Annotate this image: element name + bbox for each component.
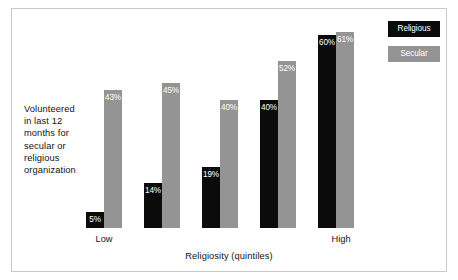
bar-religious-quintile-1[interactable]: 5% — [86, 212, 104, 228]
bar-value-secular-quintile-3: 40% — [220, 103, 238, 112]
bar-group-quintile-5: 60% 61% — [318, 16, 354, 228]
bar-religious-quintile-2[interactable]: 14% — [144, 183, 162, 228]
bar-secular-quintile-2[interactable]: 45% — [162, 83, 180, 228]
bar-group-quintile-3: 19% 40% — [202, 16, 238, 228]
bar-secular-quintile-4[interactable]: 52% — [278, 61, 296, 228]
bar-group-quintile-4: 40% 52% — [260, 16, 296, 228]
bar-group-quintile-2: 14% 45% — [144, 16, 180, 228]
bar-value-religious-quintile-5: 60% — [318, 38, 336, 47]
bar-value-secular-quintile-2: 45% — [162, 86, 180, 95]
bar-secular-quintile-5[interactable]: 61% — [336, 32, 354, 228]
bar-religious-quintile-3[interactable]: 19% — [202, 167, 220, 228]
bar-value-secular-quintile-1: 43% — [104, 93, 122, 102]
bar-value-religious-quintile-2: 14% — [144, 186, 162, 195]
y-axis-label-line-2: in last 12 — [24, 115, 90, 127]
bar-value-religious-quintile-4: 40% — [260, 103, 278, 112]
y-axis-label: Volunteered in last 12 months for secula… — [24, 103, 90, 176]
legend-label-religious: Religious — [388, 21, 440, 37]
bar-religious-quintile-5[interactable]: 60% — [318, 35, 336, 228]
legend-item-religious[interactable]: Religious — [388, 21, 440, 37]
bar-value-religious-quintile-1: 5% — [86, 215, 104, 224]
legend-label-secular: Secular — [388, 46, 440, 62]
chart-figure: Volunteered in last 12 months for secula… — [0, 0, 458, 280]
legend-item-secular[interactable]: Secular — [388, 46, 440, 62]
y-axis-label-line-6: organization — [24, 164, 90, 176]
y-axis-label-line-1: Volunteered — [24, 103, 90, 115]
y-axis-label-line-4: secular or — [24, 140, 90, 152]
x-tick-label-low: Low — [74, 234, 134, 244]
bar-religious-quintile-4[interactable]: 40% — [260, 100, 278, 228]
x-axis-title: Religiosity (quintiles) — [0, 251, 458, 261]
bar-secular-quintile-1[interactable]: 43% — [104, 90, 122, 228]
y-axis-label-line-3: months for — [24, 127, 90, 139]
bar-value-religious-quintile-3: 19% — [202, 170, 220, 179]
chart-legend: Religious Secular — [388, 21, 440, 71]
bar-secular-quintile-3[interactable]: 40% — [220, 100, 238, 228]
bar-value-secular-quintile-5: 61% — [336, 35, 354, 44]
plot-area: 5% 43% 14% 45% 19% 40% 40% — [86, 16, 354, 228]
y-axis-label-line-5: religious — [24, 152, 90, 164]
x-tick-label-high: High — [311, 234, 371, 244]
bar-value-secular-quintile-4: 52% — [278, 64, 296, 73]
bar-group-quintile-1: 5% 43% — [86, 16, 122, 228]
